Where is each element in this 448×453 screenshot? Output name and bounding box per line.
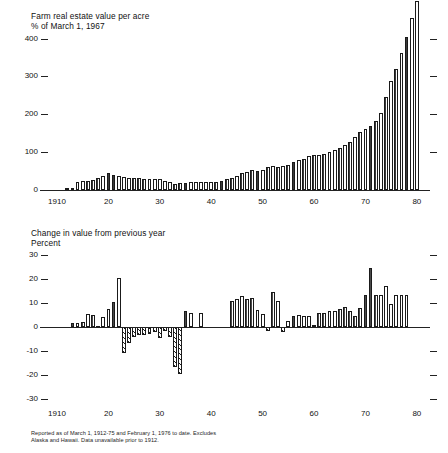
bottom-y-tick-label: -20 (8, 370, 38, 379)
top-chart-bar (245, 172, 249, 190)
top-x-tick-label: 30 (145, 197, 175, 206)
top-chart-bar (353, 137, 357, 190)
bottom-x-tick-label: 1910 (42, 409, 72, 418)
bottom-y-tick-mark (41, 303, 48, 304)
bottom-y-tick-mark (41, 399, 48, 400)
bottom-chart-bar-positive (364, 295, 368, 327)
top-chart-bar (178, 183, 182, 190)
bottom-chart-bar-positive (389, 304, 393, 327)
bottom-chart-bar-positive (348, 311, 352, 327)
top-chart-bar (168, 182, 172, 190)
bottom-chart-bar-positive (250, 298, 254, 327)
top-chart-bar (338, 148, 342, 190)
top-chart-bar (307, 156, 311, 190)
bottom-chart-bar-positive (379, 295, 383, 327)
top-x-tick-label: 20 (93, 197, 123, 206)
bottom-chart-bar-positive (276, 301, 280, 327)
top-chart-bar (112, 175, 116, 190)
top-chart-bar (148, 179, 152, 190)
top-y-tick-label: 300 (12, 71, 38, 80)
bottom-chart-bar-positive (353, 316, 357, 327)
top-chart-bar (184, 183, 188, 190)
bottom-chart-bar-positive (91, 315, 95, 327)
bottom-y-tick-label: -10 (8, 346, 38, 355)
top-chart-bar (317, 155, 321, 190)
top-chart-bar (261, 170, 265, 190)
bottom-right-tick-mark (430, 279, 437, 280)
bottom-chart-bar-positive (256, 310, 260, 327)
bottom-chart-bar-negative (137, 327, 141, 335)
bottom-chart-bar-positive (184, 311, 188, 327)
top-chart-bar (369, 126, 373, 190)
top-chart-bar (96, 178, 100, 190)
top-chart-bar (142, 179, 146, 190)
bottom-chart-bar-positive (199, 313, 203, 327)
bottom-chart-bar-positive (297, 315, 301, 327)
top-right-tick-mark (430, 76, 437, 77)
top-x-tick-label: 60 (299, 197, 329, 206)
bottom-chart-bar-negative (173, 327, 177, 367)
top-chart-bar (137, 178, 141, 190)
bottom-chart-bar-positive (317, 313, 321, 327)
top-right-tick-mark (430, 39, 437, 40)
top-right-tick-mark (430, 114, 437, 115)
bottom-x-tick-label: 80 (402, 409, 432, 418)
top-chart-bar (410, 18, 414, 190)
bottom-y-tick-label: 10 (8, 298, 38, 307)
top-chart-bar (394, 69, 398, 190)
top-y-tick-mark (41, 76, 48, 77)
bottom-chart-subtitle: Percent (31, 238, 60, 249)
bottom-chart-bar-positive (112, 302, 116, 327)
bottom-chart-bar-positive (369, 268, 373, 327)
bottom-chart-bar-negative (142, 327, 146, 335)
top-chart-bar (132, 178, 136, 190)
top-chart-bar (348, 142, 352, 190)
bottom-chart-bar-positive (245, 299, 249, 327)
top-chart-bar (286, 165, 290, 190)
bottom-right-tick-mark (430, 255, 437, 256)
bottom-chart-bar-positive (101, 317, 105, 327)
bottom-chart-bar-positive (400, 295, 404, 327)
bottom-chart-bar-negative (127, 327, 131, 343)
top-y-tick-label: 100 (12, 147, 38, 156)
top-right-tick-mark (430, 152, 437, 153)
bottom-right-tick-mark (430, 303, 437, 304)
top-chart-bar (76, 182, 80, 190)
top-chart-bar (389, 81, 393, 190)
top-chart-bar (322, 154, 326, 190)
top-chart-bar (281, 166, 285, 190)
top-chart-bar (86, 181, 90, 190)
top-x-tick-label: 80 (402, 197, 432, 206)
bottom-chart-bar-positive (271, 292, 275, 327)
top-x-tick-label: 1910 (42, 197, 72, 206)
bottom-chart-bar-positive (240, 296, 244, 327)
bottom-y-tick-mark (41, 351, 48, 352)
top-chart-bar (163, 181, 167, 190)
top-chart-bar (91, 180, 95, 190)
top-chart-plot-area (57, 31, 422, 190)
top-chart-bar (343, 145, 347, 190)
bottom-x-tick-label: 70 (350, 409, 380, 418)
bottom-chart-bar-positive (292, 316, 296, 327)
bottom-chart-bar-positive (405, 295, 409, 327)
bottom-chart-title: Change in value from previous year (31, 228, 165, 239)
top-chart-bar (302, 159, 306, 190)
bottom-x-tick-label: 50 (248, 409, 278, 418)
bottom-x-tick-label: 30 (145, 409, 175, 418)
footnote-line-2: Alaska and Hawaii. Data unavailable prio… (31, 437, 331, 444)
top-chart-bar (220, 181, 224, 190)
bottom-y-tick-label: -30 (8, 394, 38, 403)
bottom-y-tick-label: 20 (8, 274, 38, 283)
bottom-chart-bar-positive (343, 307, 347, 327)
bottom-x-tick-label: 20 (93, 409, 123, 418)
top-chart-bar (276, 167, 280, 190)
top-chart-bar (107, 173, 111, 190)
top-chart-bar (204, 182, 208, 190)
bottom-chart-bar-positive (117, 278, 121, 327)
top-chart-bar (194, 182, 198, 190)
top-chart-bar (374, 121, 378, 190)
top-x-tick-label: 70 (350, 197, 380, 206)
top-chart-bar (297, 160, 301, 190)
top-chart-panel: Farm real estate value per acre % of Mar… (0, 0, 448, 220)
bottom-chart-bar-positive (328, 311, 332, 327)
